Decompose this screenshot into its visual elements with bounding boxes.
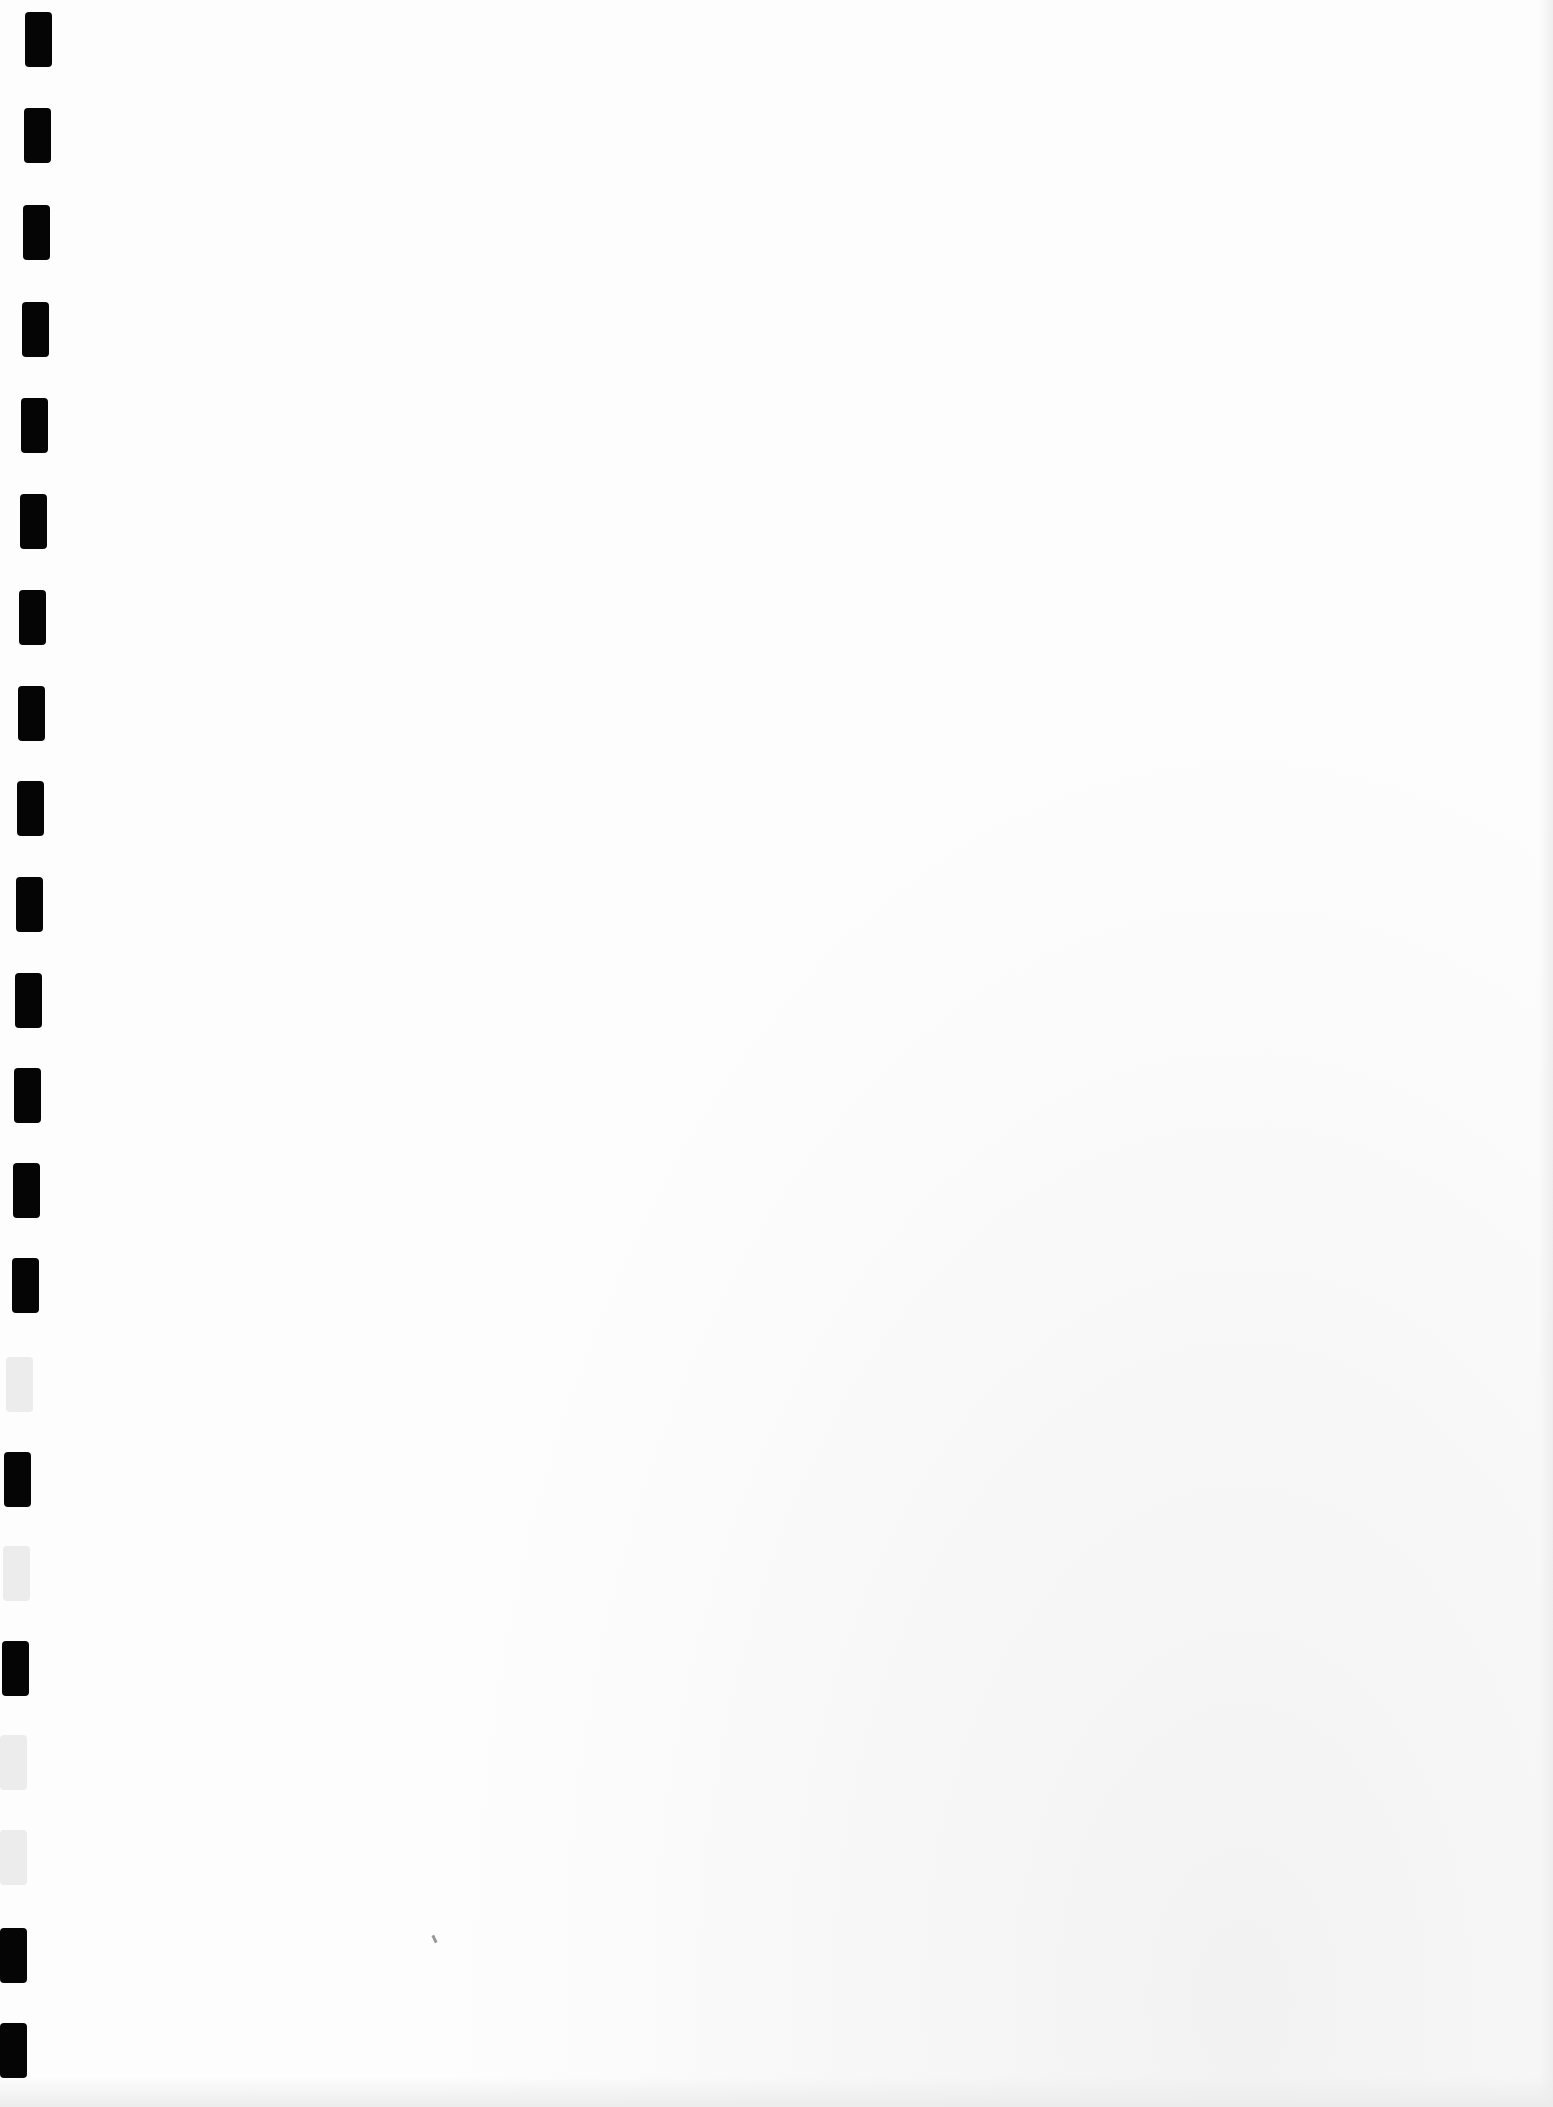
binding-hole xyxy=(4,1452,31,1507)
binding-hole xyxy=(0,1830,27,1885)
binding-hole xyxy=(0,1928,27,1983)
binding-hole xyxy=(23,205,50,260)
page-right-edge-shadow xyxy=(1539,0,1553,2107)
scanned-page xyxy=(0,0,1553,2107)
binding-hole xyxy=(25,12,52,67)
binding-hole xyxy=(20,494,47,549)
binding-hole xyxy=(18,686,45,741)
binding-hole xyxy=(21,398,48,453)
binding-hole xyxy=(17,781,44,836)
binding-hole xyxy=(2,1641,29,1696)
scan-speck xyxy=(431,1935,437,1944)
page-bottom-edge-shadow xyxy=(0,2077,1553,2107)
binding-hole xyxy=(19,590,46,645)
binding-hole xyxy=(12,1258,39,1313)
binding-hole xyxy=(14,1068,41,1123)
binding-hole xyxy=(3,1546,30,1601)
binding-hole xyxy=(22,302,49,357)
binding-hole xyxy=(6,1357,33,1412)
binding-hole xyxy=(0,2023,27,2078)
binding-hole xyxy=(13,1163,40,1218)
binding-hole xyxy=(15,973,42,1028)
binding-hole xyxy=(0,1735,27,1790)
binding-hole xyxy=(24,108,51,163)
binding-hole xyxy=(16,877,43,932)
